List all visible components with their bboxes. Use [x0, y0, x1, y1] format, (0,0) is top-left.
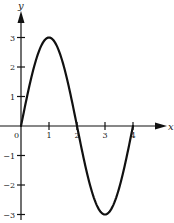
- x-axis-arrow-icon: [155, 123, 167, 130]
- y-axis-label: y: [17, 0, 24, 11]
- y-tick-label: −3: [3, 211, 15, 220]
- y-axis-arrow-icon: [18, 11, 25, 23]
- axes: [0, 18, 160, 220]
- x-ticks: 01234: [14, 122, 136, 140]
- x-tick-label: 0: [14, 131, 19, 140]
- y-tick-label: −1: [3, 152, 15, 161]
- x-tick-label: 1: [47, 131, 52, 140]
- y-tick-label: 1: [10, 93, 15, 102]
- x-tick-label: 3: [103, 131, 108, 140]
- y-tick-label: −2: [3, 181, 15, 190]
- y-tick-label: 2: [10, 63, 15, 72]
- sine-chart: x y 01234 321−1−2−3: [0, 0, 174, 223]
- y-tick-label: 3: [10, 34, 15, 43]
- x-axis-label: x: [168, 121, 174, 132]
